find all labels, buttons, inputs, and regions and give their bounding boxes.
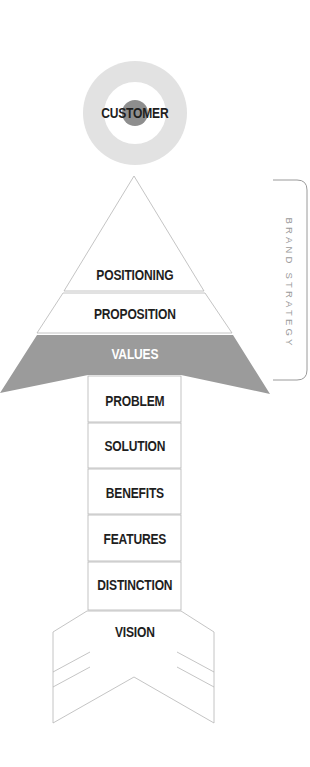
stem-label-problem: PROBLEM (19, 392, 251, 410)
stem-label-benefits: BENEFITS (19, 484, 251, 502)
stem-label-distinction: DISTINCTION (19, 576, 251, 594)
target-label-customer: CUSTOMER (19, 104, 251, 122)
bracket-label-brand-strategy: BRAND STRATEGY (284, 217, 295, 348)
stem-label-solution: SOLUTION (19, 437, 251, 455)
layer-label-proposition: PROPOSITION (19, 305, 251, 323)
stem-label-features: FEATURES (19, 530, 251, 548)
tail-label-vision: VISION (19, 623, 251, 641)
layer-label-positioning: POSITIONING (19, 266, 251, 284)
layer-label-values: VALUES (19, 345, 251, 363)
